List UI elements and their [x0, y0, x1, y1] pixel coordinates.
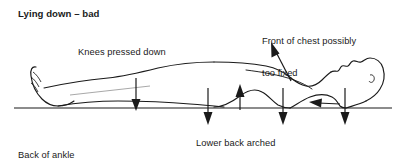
knee-down-arrow [132, 78, 141, 111]
annotation-front-of-chest: Front of chest possibly too fixed [262, 15, 356, 100]
far-leg-outline [70, 86, 150, 95]
annotation-knees-pressed-down: Knees pressed down [78, 47, 166, 58]
annotation-front-of-chest-line2: too fixed [262, 68, 356, 79]
annotation-back-of-ankle-line1: Back of ankle [18, 150, 99, 161]
annotation-front-of-chest-line1: Front of chest possibly [262, 36, 356, 47]
toe-detail-1 [33, 72, 41, 82]
annotation-back-of-ankle: Back of ankle probably shortened [18, 129, 99, 162]
figure-title: Lying down – bad [18, 9, 99, 20]
leg-top-outline [44, 62, 214, 88]
lower-back-up-arrow [236, 84, 245, 110]
leg-underside-outline [58, 101, 224, 107]
hip-down-arrow [204, 88, 213, 125]
lying-down-bad-figure: Lying down – bad Knees pressed down Fron… [0, 0, 400, 162]
ear-detail [369, 75, 374, 83]
annotation-lower-back-arched: Lower back arched [196, 138, 275, 149]
jaw-neck-outline [346, 101, 366, 108]
